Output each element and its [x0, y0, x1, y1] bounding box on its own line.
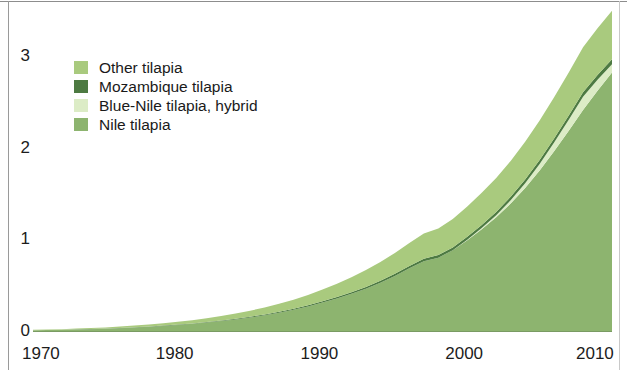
- chart-legend: Other tilapia Mozambique tilapia Blue-Ni…: [74, 58, 258, 134]
- x-axis-tick-2000: 2000: [445, 345, 483, 362]
- x-axis-tick-2010: 2010: [576, 345, 614, 362]
- stacked-area-plot: [0, 0, 627, 370]
- legend-label-other-tilapia: Other tilapia: [99, 60, 183, 76]
- legend-swatch-other-tilapia: [74, 61, 88, 74]
- legend-item-blue-nile-tilapia-hybrid: Blue-Nile tilapia, hybrid: [74, 96, 258, 115]
- y-axis-tick-3: 3: [0, 47, 30, 64]
- legend-item-mozambique-tilapia: Mozambique tilapia: [74, 77, 258, 96]
- x-axis-tick-1970: 1970: [22, 345, 60, 362]
- legend-swatch-blue-nile-tilapia-hybrid: [74, 99, 88, 112]
- x-axis-tick-1980: 1980: [156, 345, 194, 362]
- legend-label-blue-nile-tilapia-hybrid: Blue-Nile tilapia, hybrid: [99, 98, 258, 114]
- legend-label-mozambique-tilapia: Mozambique tilapia: [99, 79, 233, 95]
- legend-swatch-mozambique-tilapia: [74, 80, 88, 93]
- legend-label-nile-tilapia: Nile tilapia: [99, 117, 171, 133]
- y-axis-tick-0: 0: [0, 322, 30, 339]
- legend-item-other-tilapia: Other tilapia: [74, 58, 258, 77]
- chart-figure: 0 1 2 3 1970 1980 1990 2000 2010 Other t…: [0, 0, 627, 370]
- y-axis-tick-1: 1: [0, 230, 30, 247]
- y-axis-tick-2: 2: [0, 139, 30, 156]
- legend-swatch-nile-tilapia: [74, 118, 88, 131]
- x-axis-tick-1990: 1990: [301, 345, 339, 362]
- legend-item-nile-tilapia: Nile tilapia: [74, 115, 258, 134]
